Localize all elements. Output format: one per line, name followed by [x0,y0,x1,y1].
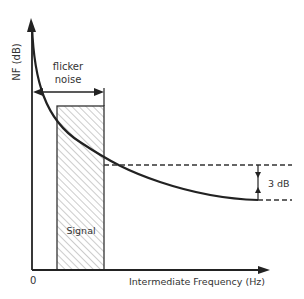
curve-arrow-icon [27,18,36,32]
flicker-label-1: flicker [53,61,84,72]
noise-figure-diagram: NF (dB) flicker noise Signal 3 dB 0 Inte… [0,0,304,299]
delta-3db-marker [255,165,261,200]
signal-label: Signal [66,225,95,236]
origin-label: 0 [30,275,36,286]
x-axis-label: Intermediate Frequency (Hz) [129,276,265,287]
x-axis-arrow-icon [258,266,270,274]
delta-label: 3 dB [268,178,290,189]
flicker-label-2: noise [55,74,82,85]
y-axis-label: NF (dB) [11,43,22,81]
